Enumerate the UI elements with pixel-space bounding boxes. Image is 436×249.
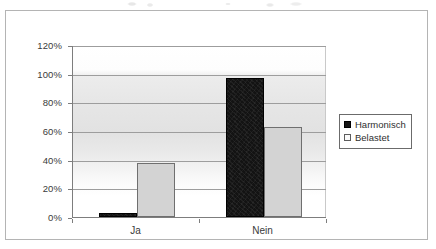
- y-tick-label-100: 100%: [6, 69, 62, 80]
- legend-swatch-harmonisch: [344, 121, 351, 128]
- x-tick-mark-0: [72, 219, 73, 223]
- bar-harmonisch-nein: [226, 78, 264, 217]
- gridline-80: [73, 103, 326, 104]
- bar-belastet-ja: [137, 163, 175, 217]
- legend-entry-belastet: Belastet: [344, 131, 406, 144]
- y-tick-label-80: 80%: [6, 97, 62, 108]
- legend-swatch-belastet: [344, 134, 351, 141]
- x-tick-mark-2: [326, 219, 327, 223]
- x-category-label-ja: Ja: [96, 225, 176, 236]
- scan-artifact-top: [120, 0, 330, 8]
- legend-entry-harmonisch: Harmonisch: [344, 118, 406, 131]
- x-category-label-nein: Nein: [223, 225, 303, 236]
- legend-label-belastet: Belastet: [355, 132, 389, 144]
- chart-screenshot: 0%20%40%60%80%100%120% JaNein Harmonisch…: [0, 0, 436, 249]
- plot-area: [72, 46, 326, 218]
- chart-figure-frame: 0%20%40%60%80%100%120% JaNein Harmonisch…: [5, 10, 428, 240]
- y-tick-label-20: 20%: [6, 183, 62, 194]
- gridline-100: [73, 75, 326, 76]
- y-tick-label-0: 0%: [6, 212, 62, 223]
- gridline-120: [73, 46, 326, 47]
- bar-belastet-nein: [264, 127, 302, 217]
- chart-legend: Harmonisch Belastet: [339, 114, 412, 149]
- y-tick-label-120: 120%: [6, 40, 62, 51]
- x-tick-mark-1: [199, 219, 200, 223]
- legend-label-harmonisch: Harmonisch: [355, 119, 406, 131]
- bar-harmonisch-ja: [99, 213, 137, 217]
- y-tick-label-60: 60%: [6, 126, 62, 137]
- y-tick-label-40: 40%: [6, 155, 62, 166]
